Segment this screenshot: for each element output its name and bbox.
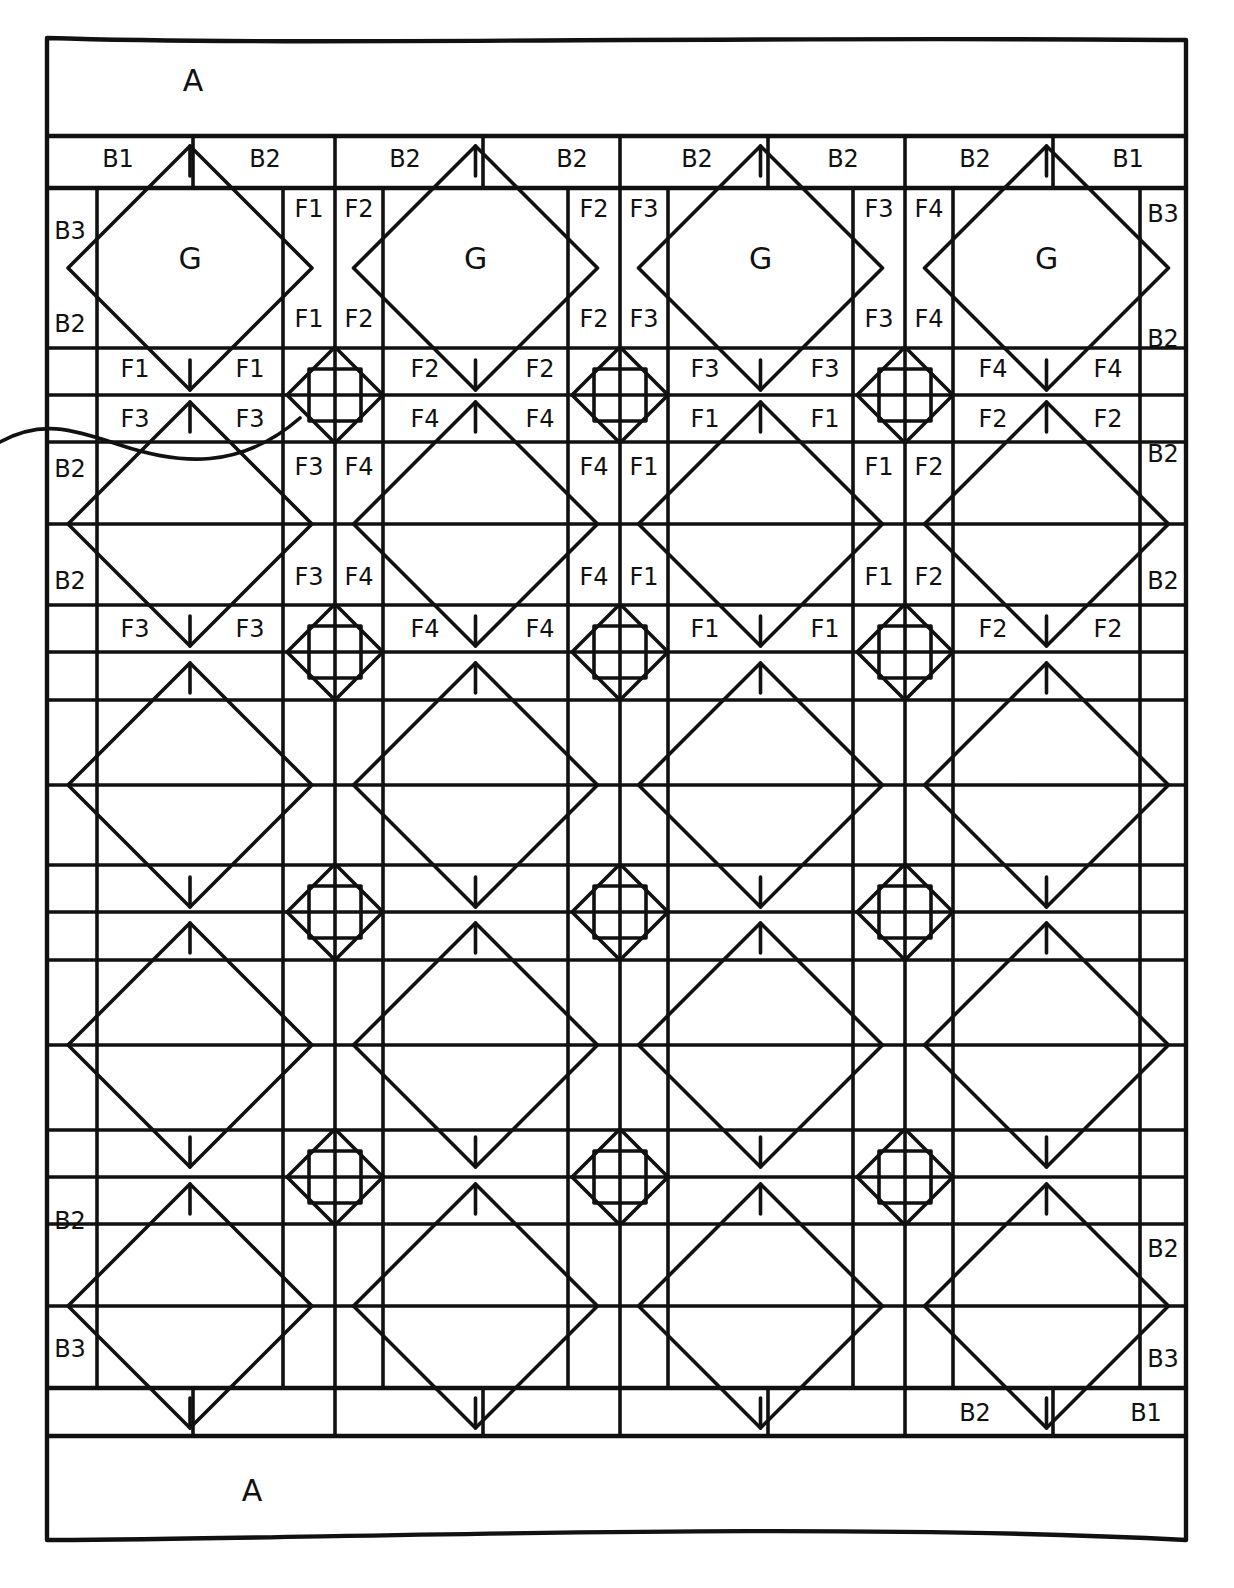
horizontal-sashing-label: F2 bbox=[978, 405, 1007, 433]
b-border-left-label: B2 bbox=[54, 455, 86, 483]
block-center-label: G bbox=[464, 241, 487, 276]
vertical-sashing-label: F1 bbox=[629, 563, 658, 591]
vertical-sashing-label: F3 bbox=[629, 195, 658, 223]
horizontal-sashing-label: F1 bbox=[235, 355, 264, 383]
horizontal-sashing-label: F1 bbox=[810, 615, 839, 643]
horizontal-sashing-label: F4 bbox=[410, 615, 439, 643]
b-border-right-label: B3 bbox=[1147, 1345, 1179, 1373]
horizontal-sashing-label: F1 bbox=[810, 405, 839, 433]
b-border-top-label: B2 bbox=[249, 145, 281, 173]
horizontal-sashing-label: F3 bbox=[690, 355, 719, 383]
block-center-label: G bbox=[1035, 241, 1058, 276]
vertical-sashing-label: F4 bbox=[579, 453, 608, 481]
horizontal-sashing-label: F4 bbox=[1093, 355, 1122, 383]
vertical-sashing-label: F2 bbox=[914, 453, 943, 481]
horizontal-sashing-label: F3 bbox=[235, 615, 264, 643]
vertical-sashing-label: F2 bbox=[579, 305, 608, 333]
b-border-right-label: B2 bbox=[1147, 440, 1179, 468]
border-a-bottom-label: A bbox=[242, 1473, 263, 1508]
vertical-sashing-label: F2 bbox=[344, 305, 373, 333]
b-border-left-label: B3 bbox=[54, 217, 86, 245]
vertical-sashing-label: F3 bbox=[629, 305, 658, 333]
b-border-left-label: B2 bbox=[54, 1207, 86, 1235]
b-border-left-label: B3 bbox=[54, 1335, 86, 1363]
b-border-top-label: B2 bbox=[681, 145, 713, 173]
horizontal-sashing-label: F4 bbox=[525, 615, 554, 643]
horizontal-sashing-label: F2 bbox=[410, 355, 439, 383]
b-border-top-label: B2 bbox=[556, 145, 588, 173]
horizontal-sashing-label: F2 bbox=[978, 615, 1007, 643]
horizontal-sashing-label: F1 bbox=[690, 405, 719, 433]
block-center-label: G bbox=[749, 241, 772, 276]
vertical-sashing-label: F3 bbox=[864, 305, 893, 333]
vertical-sashing-label: F3 bbox=[294, 563, 323, 591]
b-border-right-label: B3 bbox=[1147, 200, 1179, 228]
vertical-sashing-label: F2 bbox=[914, 563, 943, 591]
vertical-sashing-label: F1 bbox=[294, 195, 323, 223]
vertical-sashing-label: F4 bbox=[344, 453, 373, 481]
b-border-top-label: B1 bbox=[1112, 145, 1144, 173]
vertical-sashing-label: F4 bbox=[579, 563, 608, 591]
horizontal-sashing-label: F4 bbox=[525, 405, 554, 433]
b-border-bottom-label: B1 bbox=[1130, 1399, 1162, 1427]
vertical-sashing-label: F1 bbox=[294, 305, 323, 333]
b-border-top-label: B2 bbox=[827, 145, 859, 173]
horizontal-sashing-label: F1 bbox=[690, 615, 719, 643]
quilt-layout-drawing: AAB1B2B2B2B2B2B2B1B2B1B3B2B2B2B2B3B3B2B2… bbox=[0, 0, 1234, 1588]
horizontal-sashing-label: F3 bbox=[810, 355, 839, 383]
b-border-right-label: B2 bbox=[1147, 567, 1179, 595]
horizontal-sashing-label: F2 bbox=[525, 355, 554, 383]
block-center-label: G bbox=[178, 241, 201, 276]
vertical-sashing-label: F3 bbox=[864, 195, 893, 223]
vertical-sashing-label: F2 bbox=[344, 195, 373, 223]
b-border-left-label: B2 bbox=[54, 567, 86, 595]
horizontal-sashing-label: F1 bbox=[120, 355, 149, 383]
horizontal-sashing-label: F3 bbox=[235, 405, 264, 433]
vertical-sashing-label: F3 bbox=[294, 453, 323, 481]
horizontal-sashing-label: F3 bbox=[120, 615, 149, 643]
b-border-bottom-label: B2 bbox=[959, 1399, 991, 1427]
b-border-top-label: B2 bbox=[389, 145, 421, 173]
b-border-right-label: B2 bbox=[1147, 1235, 1179, 1263]
horizontal-sashing-label: F3 bbox=[120, 405, 149, 433]
horizontal-sashing-label: F2 bbox=[1093, 615, 1122, 643]
horizontal-sashing-label: F4 bbox=[978, 355, 1007, 383]
border-a-top-label: A bbox=[183, 63, 204, 98]
b-border-left-label: B2 bbox=[54, 310, 86, 338]
vertical-sashing-label: F2 bbox=[579, 195, 608, 223]
vertical-sashing-label: F1 bbox=[629, 453, 658, 481]
b-border-top-label: B2 bbox=[959, 145, 991, 173]
quilt-diagram: AAB1B2B2B2B2B2B2B1B2B1B3B2B2B2B2B3B3B2B2… bbox=[0, 0, 1234, 1588]
vertical-sashing-label: F4 bbox=[914, 305, 943, 333]
outer-frame bbox=[47, 38, 1186, 1540]
vertical-sashing-label: F4 bbox=[914, 195, 943, 223]
vertical-sashing-label: F1 bbox=[864, 563, 893, 591]
vertical-sashing-label: F4 bbox=[344, 563, 373, 591]
horizontal-sashing-label: F4 bbox=[410, 405, 439, 433]
b-border-top-label: B1 bbox=[102, 145, 134, 173]
vertical-sashing-label: F1 bbox=[864, 453, 893, 481]
horizontal-sashing-label: F2 bbox=[1093, 405, 1122, 433]
